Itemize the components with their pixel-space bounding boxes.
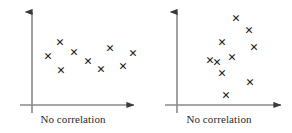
- x-axis-caption-left: No correlation: [0, 113, 146, 125]
- scatter-plot-figure: × × × × × × × × × No correlation: [0, 0, 292, 133]
- chart-panel-left: × × × × × × × × × No correlation: [0, 0, 146, 133]
- x-axis-caption-right: No correlation: [146, 113, 292, 125]
- chart-panel-right: × × × × × × × × × × No correlation: [146, 0, 292, 133]
